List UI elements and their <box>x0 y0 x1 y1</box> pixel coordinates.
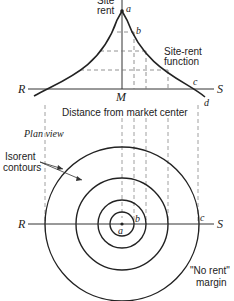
plan-axis-right-label-s: S <box>217 217 223 231</box>
point-d-label: d <box>204 97 210 108</box>
x-axis-caption: Distance from market center <box>62 107 188 118</box>
diagram-canvas: Site rent a b Site-rent function c d R S… <box>0 0 234 301</box>
point-c-label: c <box>193 76 198 87</box>
contours-label-line1: Isorent <box>5 151 36 162</box>
rent-profile: Site rent a b Site-rent function c d R S… <box>17 0 223 118</box>
axis-right-label-s: S <box>217 82 223 96</box>
peak-point-a <box>120 9 124 13</box>
center-label-m: M <box>115 90 127 104</box>
plan-view-title: Plan view <box>23 128 64 139</box>
no-rent-margin-label-line1: "No rent" <box>190 265 230 276</box>
no-rent-margin-label-line2: margin <box>196 277 227 288</box>
point-b-label: b <box>136 25 141 36</box>
arrowhead-icon <box>76 176 82 181</box>
rent-level-guides <box>80 32 168 70</box>
plan-axis-left-label-r: R <box>17 217 26 231</box>
plan-point-b-label: b <box>135 213 140 224</box>
plan-view: Plan view Isorent contours R S a b c "No… <box>3 128 230 301</box>
projection-lines <box>45 105 198 224</box>
plan-point-c-label: c <box>200 212 205 223</box>
point-a-label: a <box>126 3 131 14</box>
curve-label-line2: function <box>164 56 199 67</box>
arrowhead-icon <box>57 165 63 170</box>
axis-left-label-r: R <box>17 82 26 96</box>
plan-point-a-label: a <box>118 225 123 236</box>
y-axis-label-rent: rent <box>97 5 114 16</box>
profile-drop-lines <box>134 32 168 89</box>
contours-label-line2: contours <box>3 162 41 173</box>
